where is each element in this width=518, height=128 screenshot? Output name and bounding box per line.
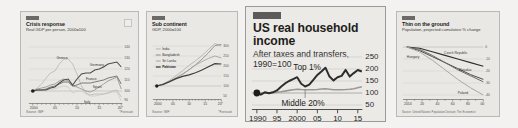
chart-card-sub-continent[interactable]: Sub continent GDP, 2000=100 300 250 200 …: [146, 11, 238, 117]
x-tick-label: 10: [75, 106, 79, 109]
x-tick-label: 2014: [404, 102, 412, 106]
x-tick-label: 2000: [154, 102, 162, 106]
x-tick-label: 10: [333, 114, 342, 122]
chart-title: US real household income: [253, 22, 379, 48]
x-tick-label: 15: [203, 102, 207, 106]
x-tick-label: 05: [171, 102, 175, 106]
y-tick-label: -10: [485, 57, 490, 61]
chart-plot-area: 140 130 120 110 100 90 Greece Germany: [21, 37, 138, 109]
y-tick-label: 120: [124, 67, 130, 71]
x-tick-label: 1990: [249, 114, 267, 122]
x-tick-label: 05: [53, 106, 57, 109]
y-tick-label: 0: [485, 45, 487, 49]
series-label-hungary: Hungary: [407, 55, 420, 59]
y-tick-label: 140: [124, 45, 130, 49]
y-tick-label: 200: [365, 64, 379, 73]
chart-subtitle: GDP, 2000=100: [152, 28, 232, 33]
y-tick-label: -20: [485, 69, 490, 73]
series-label-spain: Spain: [93, 85, 102, 89]
chart-footer: Source: United Nations Population Divisi…: [402, 110, 494, 114]
x-tick-label: 20*: [218, 102, 224, 106]
legend-label-pakistan: Pakistan: [162, 65, 176, 69]
x-tick-label: 05: [313, 114, 322, 122]
chart-subtitle: Real GDP per person, 2000=100: [26, 28, 133, 33]
economist-red-tab-icon: [152, 16, 165, 20]
chart-footer: Source: IMF *Forecast: [152, 110, 232, 114]
legend-label-sri-lanka: Sri Lanka: [162, 59, 176, 63]
x-tick-label: 40: [436, 102, 440, 106]
corner-marker-icon: [124, 19, 132, 27]
y-tick-label: 150: [365, 76, 379, 85]
x-tick-label: 60: [451, 102, 455, 106]
y-tick-label: 50: [365, 100, 374, 109]
chart-footer: Source: IMF *Forecast: [26, 110, 133, 114]
series-label-france: France: [86, 77, 97, 81]
series-label-top-1: Top 1%: [293, 62, 321, 72]
y-tick-label: -40: [485, 93, 490, 97]
economist-red-tab-icon: [26, 16, 39, 20]
x-tick-label: 95: [273, 114, 282, 122]
y-tick-label: 130: [124, 56, 130, 60]
series-label-czech-republic: Czech Republic: [444, 51, 468, 55]
forecast-note: *Forecast: [119, 110, 133, 114]
y-tick-label: 90: [124, 98, 128, 102]
x-tick-label: 2000: [30, 106, 38, 109]
y-tick-label: 100: [223, 84, 229, 88]
x-tick-label: 20: [420, 102, 424, 106]
y-tick-label: 150: [223, 74, 229, 78]
source-label: Source: IMF: [152, 110, 169, 114]
economist-red-tab-icon: [253, 12, 281, 19]
x-tick-label: 80: [466, 102, 470, 106]
chart-subtitle: Population, projected cumulative % chang…: [402, 28, 494, 33]
series-label-middle-20: Middle 20%: [281, 98, 325, 108]
source-label: Source: United Nations Population Divisi…: [402, 110, 475, 114]
x-tick-label: 15: [97, 106, 101, 109]
economist-red-tab-icon: [402, 16, 415, 20]
y-tick-label: 50: [223, 94, 227, 98]
x-tick-label: 15: [353, 114, 362, 122]
y-tick-label: -30: [485, 81, 490, 85]
origin-marker: [155, 84, 158, 87]
legend-label-bangladesh: Bangladesh: [162, 53, 180, 57]
x-tick-label: 2000: [288, 114, 306, 122]
x-tick-label: 00: [480, 102, 484, 106]
forecast-note: *Forecast: [218, 110, 232, 114]
series-label-slovakia: Slovakia: [459, 68, 472, 72]
series-line-italy: [33, 86, 121, 101]
y-tick-label: 110: [124, 78, 129, 82]
y-tick-label: 200: [223, 64, 229, 68]
chart-plot-area: 250 200 150 100 50 Top 1% Middle 20%: [246, 50, 385, 122]
source-label: Source: IMF: [26, 110, 43, 114]
x-tick-label: 20*: [118, 106, 124, 109]
chart-plot-area: 0 -10 -20 -30 -40 Hungary Czech Republic…: [397, 37, 499, 109]
y-tick-label: 300: [223, 44, 229, 48]
chart-gallery: Crisis response Real GDP per person, 200…: [0, 0, 518, 128]
legend-label-india: India: [162, 47, 169, 51]
series-label-germany: Germany: [90, 63, 104, 67]
origin-marker: [253, 90, 260, 97]
chart-card-thin-on-the-ground[interactable]: Thin on the ground Population, projected…: [396, 11, 500, 117]
series-label-poland: Poland: [458, 91, 468, 95]
chart-plot-area: 300 250 200 150 100 50 India Bangladesh …: [147, 37, 237, 109]
y-tick-label: 100: [365, 88, 379, 97]
chart-card-us-real-household-income[interactable]: US real household income After taxes and…: [245, 6, 386, 122]
y-tick-label: 250: [223, 54, 229, 58]
y-tick-label: 250: [365, 52, 379, 61]
y-tick-label: 100: [124, 89, 130, 93]
chart-card-crisis-response[interactable]: Crisis response Real GDP per person, 200…: [20, 11, 139, 117]
origin-marker: [31, 89, 35, 93]
series-label-greece: Greece: [56, 56, 67, 60]
x-tick-label: 10: [187, 102, 191, 106]
